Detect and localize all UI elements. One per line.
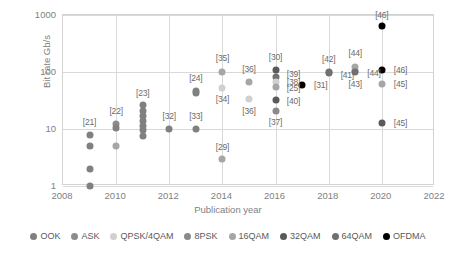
data-point-label: [22]	[109, 106, 122, 116]
data-point	[113, 124, 120, 131]
data-point	[325, 69, 332, 76]
data-point-label: [21]	[83, 117, 96, 127]
legend-swatch-icon	[110, 233, 117, 240]
legend-item-ask[interactable]: ASK	[71, 231, 99, 241]
legend-item-16qam[interactable]: 16QAM	[229, 231, 270, 241]
y-tick-1: 1	[51, 180, 56, 191]
data-point	[272, 97, 279, 104]
data-point	[86, 165, 93, 172]
data-point	[378, 120, 385, 127]
data-point-label: [30]	[269, 52, 282, 62]
legend-label: ASK	[81, 231, 99, 241]
legend-label: QPSK/4QAM	[120, 231, 173, 241]
data-point-label: [46]	[375, 10, 388, 20]
data-point	[219, 155, 226, 162]
legend-swatch-icon	[383, 233, 390, 240]
x-tick-2010: 2010	[105, 190, 126, 201]
legend-swatch-icon	[332, 233, 339, 240]
data-point	[246, 78, 253, 85]
legend-item-64qam[interactable]: 64QAM	[332, 231, 373, 241]
x-tick-2016: 2016	[264, 190, 285, 201]
data-point	[113, 143, 120, 150]
data-point	[272, 107, 279, 114]
data-point-label: [40]	[287, 96, 300, 106]
legend-swatch-icon	[280, 233, 287, 240]
data-point	[86, 183, 93, 190]
legend-label: 64QAM	[342, 231, 373, 241]
data-point	[246, 96, 253, 103]
data-point	[378, 80, 385, 87]
legend-label: OOK	[40, 231, 60, 241]
plot-area: [21][22][23][32][24][33][35][34][29][36]…	[62, 14, 434, 185]
x-axis-title: Publication year	[0, 204, 456, 215]
legend-swatch-icon	[184, 233, 191, 240]
data-point-label: [25]	[287, 83, 300, 93]
legend-label: OFDMA	[393, 231, 426, 241]
data-point-label: [37]	[269, 117, 282, 127]
data-point	[192, 90, 199, 97]
legend-item-qpsk-4qam[interactable]: QPSK/4QAM	[110, 231, 173, 241]
data-point	[139, 133, 146, 140]
data-point-label: [33]	[189, 111, 202, 121]
legend-item-ofdma[interactable]: OFDMA	[383, 231, 426, 241]
data-point-label: [43]	[349, 79, 362, 89]
data-point	[192, 126, 199, 133]
x-tick-2018: 2018	[317, 190, 338, 201]
data-point	[219, 85, 226, 92]
data-point	[86, 143, 93, 150]
data-point-label: [44]	[349, 48, 362, 58]
y-axis-tick-labels: 1101001000	[0, 0, 62, 185]
data-point-label: [36]	[242, 64, 255, 74]
data-point-label: [35]	[216, 53, 229, 63]
legend-label: 8PSK	[194, 231, 217, 241]
data-point-label: [36]	[242, 106, 255, 116]
x-tick-2014: 2014	[211, 190, 232, 201]
data-point-label: [42]	[322, 54, 335, 64]
data-point-label: [46]	[394, 65, 407, 75]
data-point-label: [31]	[314, 80, 327, 90]
legend-swatch-icon	[30, 233, 37, 240]
data-point-label: [45]	[394, 118, 407, 128]
gridline-vertical	[382, 15, 383, 184]
data-point	[86, 131, 93, 138]
legend-item-32qam[interactable]: 32QAM	[280, 231, 321, 241]
data-point-label: [23]	[136, 88, 149, 98]
gridline-vertical	[116, 15, 117, 184]
legend-swatch-icon	[71, 233, 78, 240]
legend-item-ook[interactable]: OOK	[30, 231, 60, 241]
y-tick-10: 10	[45, 123, 56, 134]
legend-label: 32QAM	[290, 231, 321, 241]
data-point	[219, 69, 226, 76]
gridline-vertical	[169, 15, 170, 184]
x-tick-2020: 2020	[370, 190, 391, 201]
data-point-label: [29]	[216, 142, 229, 152]
x-tick-2012: 2012	[158, 190, 179, 201]
data-point-label: [45]	[394, 79, 407, 89]
data-point	[272, 84, 279, 91]
x-tick-2008: 2008	[51, 190, 72, 201]
legend-swatch-icon	[229, 233, 236, 240]
data-point	[166, 126, 173, 133]
legend: OOKASKQPSK/4QAM8PSK16QAM32QAM64QAMOFDMA	[0, 231, 456, 241]
data-point-label: [24]	[189, 73, 202, 83]
legend-item-8psk[interactable]: 8PSK	[184, 231, 217, 241]
y-tick-100: 100	[40, 66, 56, 77]
legend-label: 16QAM	[239, 231, 270, 241]
y-tick-1000: 1000	[35, 9, 56, 20]
data-point-label: [44]	[367, 68, 380, 78]
bit-rate-vs-publication-year-chart: Bit rate Gb/s 1101001000 [21][22][23][32…	[0, 0, 456, 260]
x-tick-2022: 2022	[423, 190, 444, 201]
data-point	[378, 23, 385, 30]
gridline-horizontal	[63, 186, 433, 187]
gridline-vertical	[329, 15, 330, 184]
data-point-label: [32]	[163, 111, 176, 121]
data-point-label: [34]	[216, 94, 229, 104]
